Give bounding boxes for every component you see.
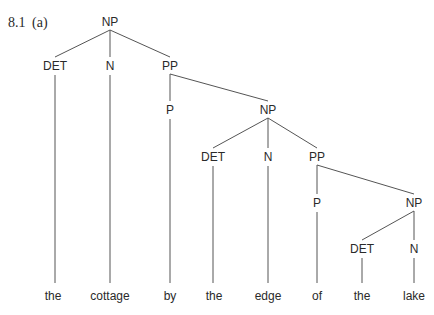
node-n: N <box>410 242 419 256</box>
node-n: N <box>264 150 273 164</box>
tree-leaves: thecottagebytheedgeofthelake <box>45 289 426 303</box>
node-p: P <box>166 103 174 117</box>
tree-edge <box>213 118 268 148</box>
node-det: DET <box>350 242 375 256</box>
node-p: P <box>313 196 321 210</box>
leaf-word: the <box>354 289 371 303</box>
tree-edge <box>362 211 414 240</box>
node-np: NP <box>406 196 423 210</box>
tree-edge <box>317 165 414 194</box>
node-pp: PP <box>309 150 325 164</box>
tree-edge <box>268 118 317 148</box>
leaf-word: the <box>45 289 62 303</box>
node-n: N <box>106 59 115 73</box>
tree-nodes: NPDETNPPPNPDETNPPPNPDETN <box>43 15 422 256</box>
tree-edge <box>55 30 110 57</box>
leaf-word: of <box>312 289 323 303</box>
tree-edge <box>170 74 268 101</box>
leaf-word: cottage <box>90 289 130 303</box>
node-np: NP <box>102 15 119 29</box>
node-det: DET <box>43 59 68 73</box>
leaf-word: lake <box>403 289 425 303</box>
figure-number: 8.1 <box>8 15 26 30</box>
leaf-word: by <box>164 289 177 303</box>
node-np: NP <box>260 103 277 117</box>
tree-edge <box>110 30 170 57</box>
leaf-word: edge <box>255 289 282 303</box>
figure-part: (a) <box>32 15 48 31</box>
node-det: DET <box>201 150 226 164</box>
syntax-tree: 8.1 (a) NPDETNPPPNPDETNPPPNPDETN thecott… <box>0 0 434 315</box>
leaf-word: the <box>206 289 223 303</box>
node-pp: PP <box>162 59 178 73</box>
